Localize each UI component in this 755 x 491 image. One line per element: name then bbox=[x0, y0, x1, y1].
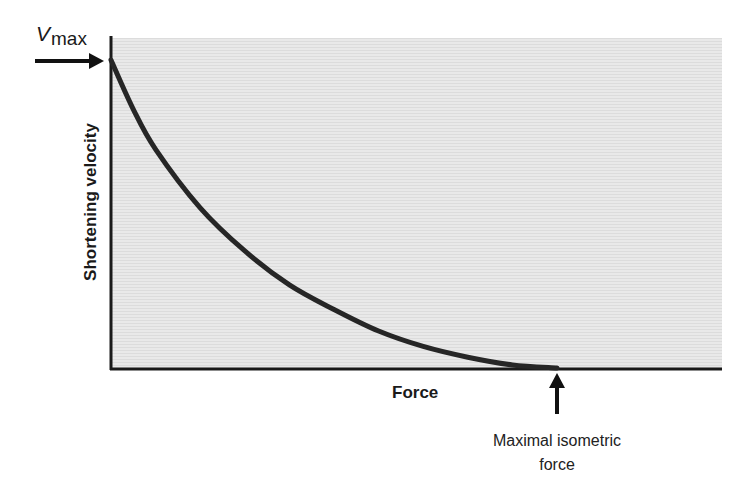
force-velocity-chart bbox=[0, 0, 755, 491]
x-axis-label: Force bbox=[392, 383, 438, 403]
y-axis-label: Shortening velocity bbox=[81, 123, 101, 281]
vmax-label-main: V bbox=[36, 22, 50, 45]
vmax-arrow bbox=[35, 53, 104, 69]
vmax-label-subscript: max bbox=[51, 28, 87, 49]
vmax-label: Vmax bbox=[36, 22, 87, 46]
plot-area bbox=[111, 38, 722, 369]
annotation-line-2: force bbox=[493, 453, 621, 477]
isometric-force-arrow bbox=[549, 373, 565, 414]
isometric-force-annotation: Maximal isometric force bbox=[493, 429, 621, 477]
annotation-line-1: Maximal isometric bbox=[493, 429, 621, 453]
